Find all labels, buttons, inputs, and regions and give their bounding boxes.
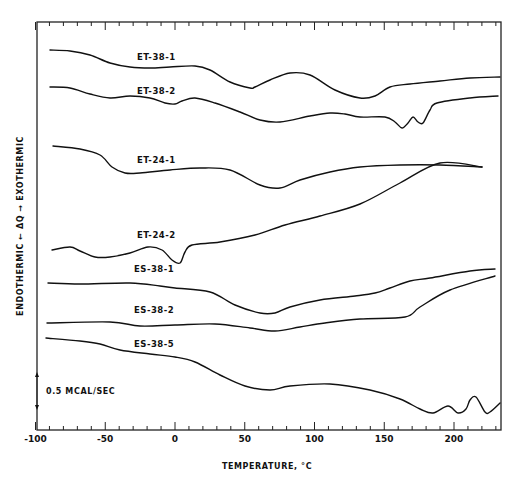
plot-frame <box>37 22 501 430</box>
x-tick-label: 100 <box>305 434 324 444</box>
thermogram-curves <box>46 50 500 414</box>
curve-label: ES-38-2 <box>134 305 174 315</box>
curve-es-38-1 <box>48 269 495 314</box>
x-axis-label: TEMPERATURE, °C <box>222 462 312 471</box>
scale-bar-label: 0.5 MCAL/SEC <box>46 387 115 396</box>
x-tick-label: 200 <box>445 434 464 444</box>
curve-label: ET-38-1 <box>137 52 176 62</box>
curve-label: ET-38-2 <box>137 86 176 96</box>
scale-bar: 0.5 MCAL/SEC <box>35 372 115 410</box>
x-axis-ticks <box>36 22 496 430</box>
x-axis-tick-labels: -100-50050100150200 <box>24 434 463 444</box>
x-tick-label: -100 <box>24 434 47 444</box>
dsc-thermogram-chart: -100-50050100150200 ET-38-1ET-38-2ET-24-… <box>0 0 518 488</box>
curve-et-24-1 <box>53 146 482 188</box>
curve-label: ES-38-1 <box>134 264 174 274</box>
curve-et-38-1 <box>50 50 500 98</box>
x-tick-label: -50 <box>97 434 113 444</box>
x-tick-label: 0 <box>172 434 178 444</box>
scale-bar-arrow-up-icon <box>35 372 39 377</box>
scale-bar-arrow-down-icon <box>35 405 39 410</box>
curve-es-38-5 <box>46 338 500 414</box>
curve-et-24-2 <box>52 162 482 263</box>
x-tick-label: 50 <box>238 434 251 444</box>
curve-label: ET-24-1 <box>137 155 176 165</box>
curve-et-38-2 <box>50 87 498 128</box>
y-axis-label: ENDOTHERMIC ← ΔQ → EXOTHERMIC <box>16 136 25 316</box>
curve-es-38-2 <box>47 276 495 331</box>
x-tick-label: 150 <box>375 434 394 444</box>
curve-label: ES-38-5 <box>134 339 174 349</box>
curve-label: ET-24-2 <box>137 230 176 240</box>
